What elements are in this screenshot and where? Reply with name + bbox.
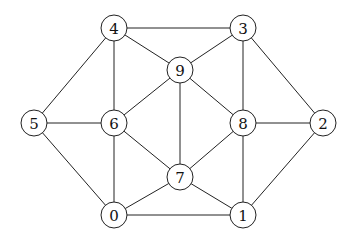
node-2: 2	[310, 110, 336, 136]
edge-4-5	[34, 28, 114, 123]
nodes: 0123456789	[21, 15, 336, 228]
node-3: 3	[230, 15, 256, 41]
node-8: 8	[230, 110, 256, 136]
node-6: 6	[101, 110, 127, 136]
node-0: 0	[101, 202, 127, 228]
node-label: 1	[238, 207, 248, 225]
node-9: 9	[167, 57, 193, 83]
node-label: 8	[238, 115, 248, 133]
node-label: 3	[238, 20, 248, 38]
node-label: 7	[175, 169, 185, 187]
node-label: 5	[29, 115, 39, 133]
graph-diagram: 0123456789	[0, 0, 354, 241]
node-4: 4	[101, 15, 127, 41]
node-label: 9	[175, 62, 185, 80]
node-label: 2	[318, 115, 328, 133]
node-5: 5	[21, 110, 47, 136]
node-label: 6	[109, 115, 119, 133]
edge-5-0	[34, 123, 114, 215]
node-7: 7	[167, 164, 193, 190]
edge-3-2	[243, 28, 323, 123]
node-label: 4	[109, 20, 119, 38]
node-label: 0	[109, 207, 119, 225]
node-1: 1	[230, 202, 256, 228]
edge-2-1	[243, 123, 323, 215]
